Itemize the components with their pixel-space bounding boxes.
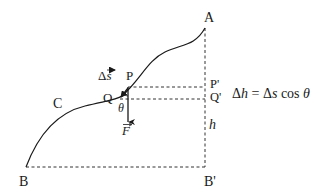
label-B-prime: B' (204, 174, 216, 189)
theta-angle-arc (123, 94, 128, 96)
delta-s-label: Δs (98, 68, 115, 83)
label-A: A (204, 10, 215, 25)
formula-rhs-func: cos (277, 86, 303, 101)
label-B: B (19, 174, 28, 189)
label-h: h (209, 117, 216, 132)
label-C: C (53, 96, 62, 111)
label-Q-prime: Q' (210, 90, 221, 104)
delta-s-delta: Δ (98, 68, 106, 83)
formula-lhs-delta: Δ (232, 86, 241, 101)
formula-equals: = (248, 86, 263, 101)
formula-lhs-var: h (241, 86, 248, 101)
formula-rhs-angle: θ (303, 86, 310, 101)
formula-rhs-delta: Δ (263, 86, 272, 101)
label-P: P (126, 68, 133, 83)
formula-delta-h: Δh = Δs cos θ (232, 86, 310, 101)
label-Q: Q (103, 90, 113, 105)
label-P-prime: P' (210, 77, 219, 91)
diagram-canvas: A B B' C P Q P' Q' Δs θ F h Δh = Δs cos … (0, 0, 336, 196)
label-theta: θ (118, 101, 124, 115)
label-F: F (121, 123, 131, 138)
